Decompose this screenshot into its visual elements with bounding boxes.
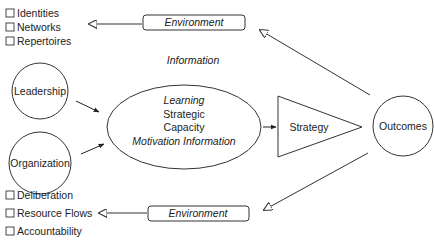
checkbox-icon: [6, 209, 14, 217]
top-list-item-repertoires: Repertoires: [17, 35, 71, 47]
top-environment-label: Environment: [165, 16, 225, 28]
ellipse-line-learning: Learning: [164, 94, 205, 106]
organization-to-ellipse-arrow: [81, 144, 104, 154]
outcomes-to-bottom-environment-arrow: [264, 153, 368, 210]
ellipse-line-capacity: Capacity: [164, 121, 206, 133]
outcomes-to-top-environment-arrow: [260, 30, 370, 95]
strategy-label: Strategy: [289, 121, 329, 133]
checkbox-icon: [6, 37, 14, 45]
bottom-list-item-deliberation: Deliberation: [17, 189, 73, 201]
diagram-canvas: Identities Networks Repertoires Environm…: [0, 0, 434, 245]
checkbox-icon: [6, 227, 14, 235]
ellipse-line-strategic: Strategic: [163, 108, 204, 120]
organization-label: Organization: [10, 157, 70, 169]
checkbox-icon: [6, 23, 14, 31]
outcomes-label: Outcomes: [379, 120, 427, 132]
bottom-environment-label: Environment: [169, 207, 229, 219]
bottom-list-item-accountability: Accountability: [17, 225, 83, 237]
checkbox-icon: [6, 9, 14, 17]
bottom-list: Deliberation Resource Flows Accountabili…: [6, 189, 92, 237]
leadership-to-ellipse-arrow: [76, 101, 99, 112]
ellipse-line-motivation-information: Motivation Information: [132, 135, 235, 147]
bottom-list-item-resource-flows: Resource Flows: [17, 207, 92, 219]
information-label: Information: [167, 54, 220, 66]
top-list-item-networks: Networks: [17, 21, 61, 33]
leadership-label: Leadership: [14, 85, 66, 97]
top-list: Identities Networks Repertoires: [6, 7, 71, 47]
top-list-item-identities: Identities: [17, 7, 59, 19]
checkbox-icon: [6, 191, 14, 199]
